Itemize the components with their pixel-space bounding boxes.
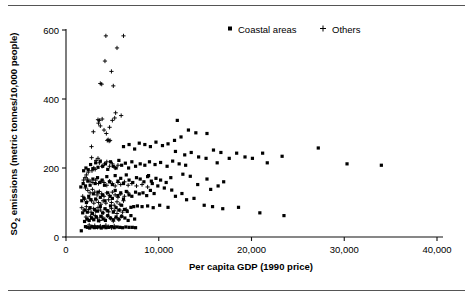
data-point-coastal bbox=[178, 162, 181, 165]
data-point-other bbox=[111, 84, 115, 88]
data-point-coastal bbox=[139, 177, 142, 180]
data-point-coastal bbox=[134, 165, 137, 168]
data-point-other bbox=[104, 34, 108, 38]
data-point-other bbox=[119, 113, 123, 117]
data-point-coastal bbox=[111, 183, 114, 186]
data-point-coastal bbox=[116, 180, 119, 183]
data-point-coastal bbox=[129, 206, 132, 209]
y-axis: 0200400600 bbox=[43, 25, 66, 243]
legend-label-coastal-areas: Coastal areas bbox=[238, 24, 297, 35]
x-axis: 010,00020,00030,00040,000 bbox=[63, 237, 451, 255]
data-point-coastal bbox=[345, 162, 348, 165]
data-point-coastal bbox=[127, 143, 130, 146]
data-point-coastal bbox=[237, 206, 240, 209]
data-point-coastal bbox=[123, 208, 126, 211]
data-point-coastal bbox=[101, 211, 104, 214]
data-point-other bbox=[92, 201, 96, 205]
data-point-coastal bbox=[104, 219, 107, 222]
data-point-other bbox=[114, 111, 118, 115]
data-point-coastal bbox=[96, 210, 99, 213]
data-point-coastal bbox=[109, 160, 112, 163]
data-point-coastal bbox=[114, 174, 117, 177]
data-point-coastal bbox=[134, 226, 137, 229]
data-point-coastal bbox=[104, 162, 107, 165]
data-point-coastal bbox=[166, 142, 169, 145]
x-tick-label: 20,000 bbox=[237, 244, 266, 255]
data-point-coastal bbox=[181, 173, 184, 176]
data-point-coastal bbox=[205, 132, 208, 135]
data-point-coastal bbox=[116, 194, 119, 197]
data-point-other bbox=[84, 205, 88, 209]
x-axis-ticks: 010,00020,00030,00040,000 bbox=[63, 237, 451, 255]
data-point-coastal bbox=[86, 180, 89, 183]
y-tick-label: 600 bbox=[43, 25, 59, 36]
data-point-coastal bbox=[117, 159, 120, 162]
data-point-coastal bbox=[101, 165, 104, 168]
chart-legend: Coastal areas Others bbox=[228, 24, 361, 35]
scatter-plot: 0200400600 010,00020,00030,00040,000 Coa… bbox=[0, 0, 473, 299]
data-point-coastal bbox=[126, 210, 129, 213]
data-point-coastal bbox=[190, 151, 193, 154]
svg-text:Per capita GDP (1990 price): Per capita GDP (1990 price) bbox=[189, 261, 313, 272]
data-point-coastal bbox=[123, 216, 126, 219]
data-point-coastal bbox=[149, 145, 152, 148]
data-point-coastal bbox=[81, 211, 84, 214]
data-point-coastal bbox=[79, 185, 82, 188]
data-point-coastal bbox=[189, 175, 192, 178]
data-point-coastal bbox=[94, 197, 97, 200]
data-point-coastal bbox=[97, 219, 100, 222]
data-point-coastal bbox=[154, 177, 157, 180]
data-point-coastal bbox=[84, 184, 87, 187]
data-point-coastal bbox=[211, 205, 214, 208]
data-point-coastal bbox=[80, 229, 83, 232]
data-point-other bbox=[110, 118, 114, 122]
data-point-coastal bbox=[179, 135, 182, 138]
data-point-coastal bbox=[89, 184, 92, 187]
data-point-coastal bbox=[85, 201, 88, 204]
data-point-coastal bbox=[82, 169, 85, 172]
data-point-coastal bbox=[133, 217, 136, 220]
data-point-coastal bbox=[106, 209, 109, 212]
data-point-other bbox=[80, 206, 84, 210]
legend-marker-coastal-areas bbox=[228, 27, 232, 31]
data-point-coastal bbox=[161, 144, 164, 147]
data-point-coastal bbox=[87, 195, 90, 198]
data-point-coastal bbox=[91, 212, 94, 215]
data-point-coastal bbox=[122, 145, 125, 148]
data-point-other bbox=[107, 125, 111, 129]
x-tick-label: 0 bbox=[63, 244, 68, 255]
data-point-coastal bbox=[108, 180, 111, 183]
data-point-coastal bbox=[117, 217, 120, 220]
data-point-coastal bbox=[145, 194, 148, 197]
data-point-coastal bbox=[89, 206, 92, 209]
data-point-coastal bbox=[156, 184, 159, 187]
data-point-other bbox=[107, 198, 111, 202]
data-point-coastal bbox=[159, 178, 162, 181]
data-point-coastal bbox=[96, 176, 99, 179]
data-point-coastal bbox=[281, 155, 284, 158]
y-axis-title: SO2 emissions (metric tonnes/10,000 peop… bbox=[8, 33, 21, 236]
data-point-other bbox=[103, 59, 107, 63]
data-point-other bbox=[115, 46, 119, 50]
data-point-coastal bbox=[174, 195, 177, 198]
data-point-coastal bbox=[142, 180, 145, 183]
data-point-other bbox=[134, 184, 138, 188]
data-point-coastal bbox=[169, 176, 172, 179]
data-point-coastal bbox=[129, 214, 132, 217]
data-point-coastal bbox=[109, 216, 112, 219]
data-point-coastal bbox=[114, 189, 117, 192]
data-point-coastal bbox=[205, 177, 208, 180]
y-tick-label: 400 bbox=[43, 94, 59, 105]
data-point-coastal bbox=[91, 177, 94, 180]
data-point-coastal bbox=[122, 197, 125, 200]
x-axis-title: Per capita GDP (1990 price) bbox=[189, 261, 313, 272]
data-point-coastal bbox=[120, 164, 123, 167]
data-point-coastal bbox=[112, 218, 115, 221]
data-point-coastal bbox=[228, 157, 231, 160]
data-point-coastal bbox=[209, 188, 212, 191]
data-point-coastal bbox=[197, 155, 200, 158]
data-point-coastal bbox=[143, 164, 146, 167]
x-tick-label: 10,000 bbox=[144, 244, 173, 255]
data-point-coastal bbox=[103, 207, 106, 210]
data-point-coastal bbox=[380, 164, 383, 167]
